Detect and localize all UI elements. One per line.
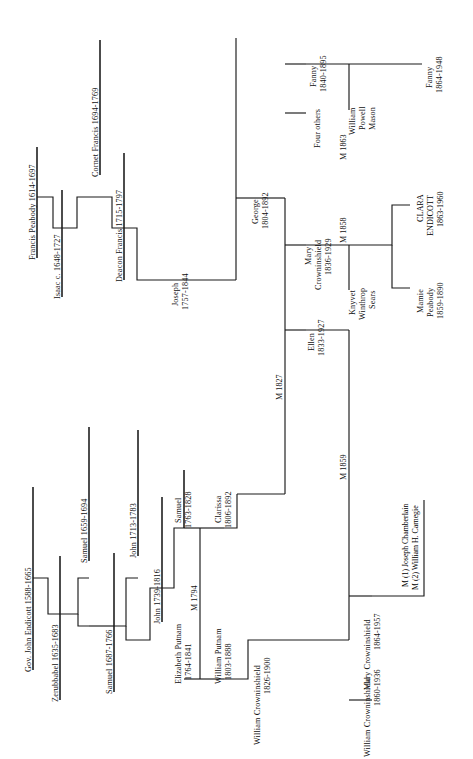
- label-deacon-francis: Deacon Francis 1715-1797: [115, 190, 124, 282]
- label-samuel-1763-name: Samuel: [174, 497, 183, 523]
- label-clarissa-dates: 1806-1892: [224, 491, 233, 528]
- label-mary-marriage-2: M (2) William H. Carnegie: [411, 505, 420, 590]
- label-william-powell-mason-line2: Powell: [358, 106, 367, 130]
- label-mamie-peabody-line2: Peabody: [426, 287, 435, 317]
- label-fanny-1840-dates: 1840-1895: [319, 55, 328, 92]
- label-william-powell-mason-line1: William: [348, 107, 357, 135]
- label-francis-peabody: Francis Peabody 1614-1697: [28, 164, 37, 260]
- label-mary-crowninshield-1836-line1: Mary: [304, 246, 313, 265]
- label-knyvet-line2: Winthrop: [358, 288, 367, 320]
- label-marriage-m1858: M 1858: [339, 217, 348, 243]
- link-samuel1687-stem: [126, 626, 138, 640]
- label-zerubbabel: Zerubbabel 1635-1683: [51, 624, 60, 702]
- label-ellen-name: Ellen: [307, 333, 316, 351]
- label-george-name: George: [251, 199, 260, 224]
- link-deaconfrancis-joseph: [124, 228, 152, 280]
- label-william-crowninshield-1826-name: William Crowninshield: [253, 665, 262, 745]
- label-john-1739: John 1739-1816: [153, 569, 162, 624]
- label-mary-marriage-1: M (1) Joseph Chamberlain: [401, 504, 410, 587]
- label-elizabeth-putnam-name: Elizabeth Putnam: [174, 623, 183, 684]
- label-clara-endicott-dates: 1863-1960: [436, 192, 445, 227]
- label-samuel-1687: Samuel 1687-1766: [105, 630, 114, 694]
- label-isaac: Isaac c. 1648-1727: [53, 234, 62, 299]
- label-samuel-1763-dates: 1763-1828: [184, 491, 193, 528]
- label-mary-crowninshield-1864-dates: 1864-1957: [373, 613, 382, 650]
- label-samuel-1659: Samuel 1659-1694: [80, 499, 89, 563]
- link-endicott-zerubbabel: [33, 578, 60, 614]
- link-isaac-cornetfrancis: [62, 197, 100, 228]
- label-william-powell-mason-line3: Mason: [368, 107, 377, 130]
- label-william-crowninshield-1826-dates: 1826-1900: [263, 657, 272, 694]
- label-ellen-dates: 1833-1927: [317, 319, 326, 356]
- label-mamie-peabody-dates: 1859-1890: [436, 282, 445, 319]
- family-tree-canvas: Gov. John Endicott 1588-1665 Zerubbabel …: [0, 0, 473, 759]
- label-clarissa-name: Clarissa: [214, 495, 223, 523]
- label-marriage-m1827: M 1827: [275, 374, 284, 400]
- label-gov-john-endicott: Gov. John Endicott 1588-1665: [24, 567, 33, 672]
- label-marriage-m1794: M 1794: [190, 585, 199, 611]
- label-marriage-m1863: M 1863: [339, 134, 348, 160]
- link-samuel1687-john1713: [114, 578, 138, 626]
- label-fanny-1864-name: Fanny: [425, 66, 434, 88]
- link-zerubbabel-samuel1659: [60, 578, 89, 614]
- label-elizabeth-putnam-dates: 1764-1841: [184, 643, 193, 680]
- label-mamie-peabody-line1: Mamie: [416, 289, 425, 313]
- label-marriage-m1859: M 1859: [339, 454, 348, 480]
- link-francispeabody-isaac: [37, 197, 62, 228]
- label-william-putnam-dates: 1803-1888: [224, 643, 233, 680]
- label-cornet-francis: Cornet Francis 1694-1769: [91, 87, 100, 177]
- label-mary-crowninshield-1836-line2: Crowninshield: [314, 240, 323, 290]
- label-clara-endicott-line1: CLARA: [416, 194, 425, 222]
- link-m1858-clara: [360, 205, 410, 245]
- label-william-putnam-name: William Putnam: [214, 628, 223, 684]
- label-mary-crowninshield-1836-dates: 1836-1929: [324, 238, 333, 275]
- label-william-crowninshield-1860-dates: 1860-1936: [373, 669, 382, 706]
- label-william-crowninshield-1860-name: William Crowninshield: [363, 677, 372, 757]
- label-george-dates: 1804-1892: [261, 192, 270, 229]
- label-clara-endicott-line2: ENDICOTT: [426, 195, 435, 236]
- link-zerubbabel-stem: [78, 614, 89, 626]
- label-joseph-name: Joseph: [171, 283, 180, 306]
- label-four-others: Four others: [313, 109, 322, 148]
- label-fanny-1864-dates: 1864-1948: [435, 56, 444, 93]
- label-knyvet-line1: Knyvet: [348, 289, 357, 315]
- link-john1739-samuel1763: [162, 528, 184, 588]
- label-knyvet-line3: Sears: [368, 291, 377, 309]
- label-john-1713: John 1713-1783: [129, 503, 138, 558]
- genealogy-chart: Gov. John Endicott 1588-1665 Zerubbabel …: [0, 0, 473, 759]
- label-fanny-1840-name: Fanny: [309, 65, 318, 87]
- link-m1858-mamie: [392, 245, 410, 288]
- label-joseph-dates: 1757-1844: [181, 273, 190, 310]
